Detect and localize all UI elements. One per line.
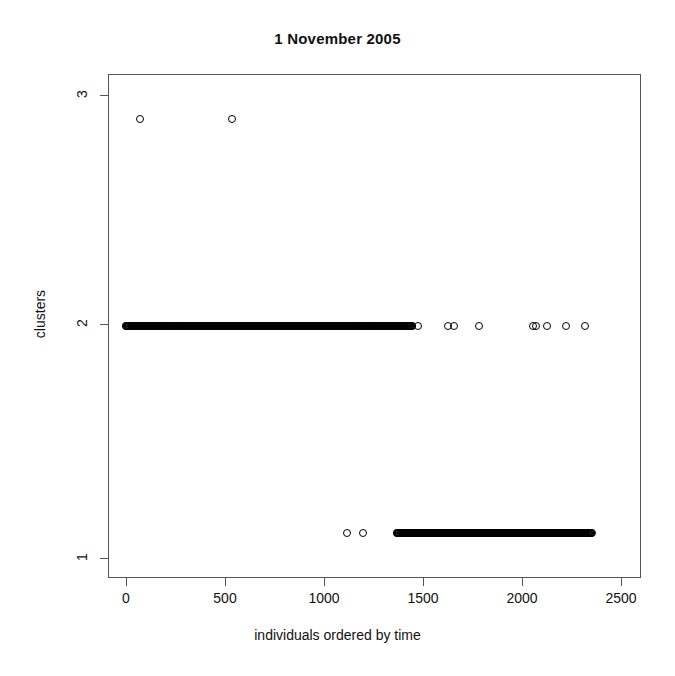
x-tick-0	[126, 578, 127, 586]
x-tick-1500	[423, 578, 424, 586]
x-tick-label-0: 0	[96, 590, 156, 606]
x-tick-2000	[522, 578, 523, 586]
y-tick-2	[100, 324, 108, 325]
x-tick-label-500: 500	[195, 590, 255, 606]
plot-frame	[108, 74, 641, 578]
x-tick-label-2500: 2500	[591, 590, 651, 606]
x-tick-label-1500: 1500	[393, 590, 453, 606]
x-tick-label-2000: 2000	[492, 590, 552, 606]
x-axis-label: individuals ordered by time	[0, 627, 675, 643]
x-tick-label-1000: 1000	[294, 590, 354, 606]
y-axis-label: clusters	[32, 254, 48, 374]
x-tick-2500	[621, 578, 622, 586]
x-tick-500	[225, 578, 226, 586]
y-tick-3	[100, 95, 108, 96]
x-tick-1000	[324, 578, 325, 586]
scatter-plot-figure: 1 November 2005 0 500 1000 1500 2000 250…	[0, 0, 675, 676]
y-tick-1	[100, 558, 108, 559]
y-tick-label-3: 3	[74, 82, 90, 106]
y-tick-label-1: 1	[74, 545, 90, 569]
page-title: 1 November 2005	[0, 30, 675, 47]
y-tick-label-2: 2	[74, 311, 90, 335]
